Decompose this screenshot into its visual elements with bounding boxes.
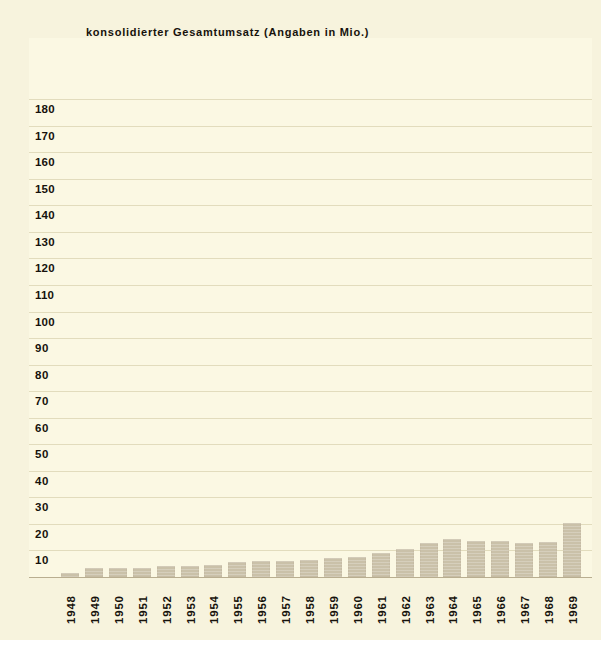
x-axis-tick-label: 1952 — [159, 582, 173, 638]
bar — [539, 542, 557, 577]
x-axis-tick-label: 1950 — [111, 582, 125, 638]
x-axis-tick-label: 1969 — [565, 582, 579, 638]
bar — [85, 568, 103, 577]
chart-title: konsolidierter Gesamtumsatz (Angaben in … — [86, 26, 369, 38]
bar — [515, 543, 533, 577]
x-axis-tick-label: 1951 — [135, 582, 149, 638]
x-axis-tick-label: 1964 — [445, 582, 459, 638]
x-axis-labels: 1948194919501951195219531954195519561957… — [29, 578, 592, 640]
bar — [563, 523, 581, 577]
bar — [420, 543, 438, 577]
bar — [133, 568, 151, 577]
bar — [157, 566, 175, 577]
x-axis-tick-label: 1963 — [422, 582, 436, 638]
bar — [443, 539, 461, 577]
x-axis-tick-label: 1948 — [63, 582, 77, 638]
x-axis-tick-label: 1967 — [517, 582, 531, 638]
bar — [348, 557, 366, 577]
x-axis-tick-label: 1958 — [302, 582, 316, 638]
x-axis-tick-label: 1968 — [541, 582, 555, 638]
bar — [300, 560, 318, 577]
bar — [61, 573, 79, 577]
bar — [396, 549, 414, 577]
scanned-page: konsolidierter Gesamtumsatz (Angaben in … — [0, 0, 601, 651]
bar — [228, 562, 246, 577]
x-axis-tick-label: 1965 — [469, 582, 483, 638]
x-axis-tick-label: 1949 — [87, 582, 101, 638]
bar — [372, 553, 390, 577]
bar-chart: konsolidierter Gesamtumsatz (Angaben in … — [29, 38, 592, 578]
x-axis-tick-label: 1962 — [398, 582, 412, 638]
bars-group — [29, 38, 592, 578]
bar — [491, 541, 509, 577]
x-axis-tick-label: 1961 — [374, 582, 388, 638]
bar — [276, 561, 294, 577]
bar — [204, 565, 222, 577]
bar — [252, 561, 270, 577]
bar — [109, 568, 127, 577]
x-axis-tick-label: 1954 — [206, 582, 220, 638]
x-axis-tick-label: 1966 — [493, 582, 507, 638]
x-axis-tick-label: 1960 — [350, 582, 364, 638]
bar — [324, 558, 342, 577]
bar — [181, 566, 199, 577]
x-axis-tick-label: 1953 — [183, 582, 197, 638]
page-bottom-edge — [0, 640, 601, 651]
x-axis-tick-label: 1959 — [326, 582, 340, 638]
x-axis-tick-label: 1957 — [278, 582, 292, 638]
x-axis-tick-label: 1956 — [254, 582, 268, 638]
bar — [467, 541, 485, 577]
x-axis-tick-label: 1955 — [230, 582, 244, 638]
